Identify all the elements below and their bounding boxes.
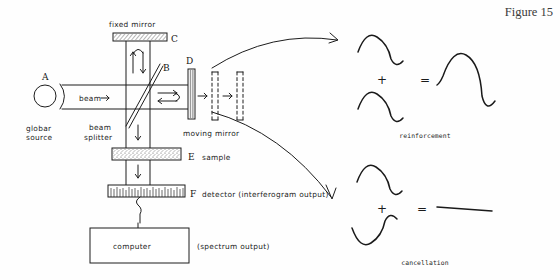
reinforcement-caption: reinforcement [399, 132, 450, 140]
cancellation-panel: + = cancellation [352, 165, 492, 267]
sample-cell: E sample [112, 148, 231, 162]
sample-label: sample [202, 153, 231, 162]
reinforcement-input-wave-b [358, 92, 403, 121]
beam-splitter-label-line2: splitter [84, 133, 113, 142]
cancellation-result-flat-line [437, 207, 492, 211]
reinforcement-equals-symbol: = [420, 73, 430, 87]
fixed-arm-beam-arrows [130, 49, 145, 73]
figure-title: Figure 15 [505, 5, 553, 19]
fixed-mirror: fixed mirror C [109, 20, 178, 44]
cancellation-equals-symbol: = [417, 202, 427, 216]
component-letter-e: E [188, 152, 195, 162]
moving-mirror-label: moving mirror [183, 129, 240, 138]
interferometer-figure: Figure 15 A globar source beam fixed mir… [0, 0, 560, 280]
component-letter-d: D [186, 56, 193, 66]
computer-box[interactable]: computer [90, 228, 189, 263]
computer-label: computer [113, 242, 152, 251]
beam-splitter-label-line1: beam [89, 123, 111, 132]
moving-mirror: D moving mirror [183, 56, 243, 138]
component-letter-a: A [41, 72, 49, 82]
component-letter-c: C [171, 34, 178, 44]
figure-page: Figure 15 A globar source beam fixed mir… [0, 0, 560, 280]
spectrum-output-label: (spectrum output) [197, 242, 270, 251]
sample-arm-arrow-upper [135, 125, 140, 140]
cancellation-input-wave-b [352, 215, 397, 244]
moving-arm-beam-arrows [158, 90, 180, 103]
detector-label: detector (interferogram output) [202, 190, 329, 199]
reinforcement-result-wave [437, 54, 495, 106]
globar-source-label-line2: source [26, 133, 52, 142]
fixed-mirror-label: fixed mirror [109, 20, 156, 29]
beam-label: beam [79, 94, 101, 103]
component-letter-b: B [163, 63, 170, 73]
detector-computer-wire [136, 197, 141, 228]
globar-source: A globar source [26, 72, 56, 142]
globar-source-label-line1: globar [26, 124, 52, 133]
sample-arm-arrow-lower [135, 165, 140, 178]
reinforcement-input-wave-a [358, 35, 403, 64]
curved-arrow-to-reinforcement [212, 33, 338, 68]
cancellation-input-wave-a [357, 165, 402, 194]
cancellation-plus-symbol: + [377, 202, 387, 216]
reinforcement-plus-symbol: + [377, 73, 387, 87]
component-letter-f: F [190, 189, 196, 199]
reinforcement-panel: + = reinforcement [358, 35, 495, 140]
detector: F detector (interferogram output) [108, 185, 329, 199]
cancellation-caption: cancellation [401, 259, 448, 267]
beam-channel: beam [60, 84, 190, 109]
